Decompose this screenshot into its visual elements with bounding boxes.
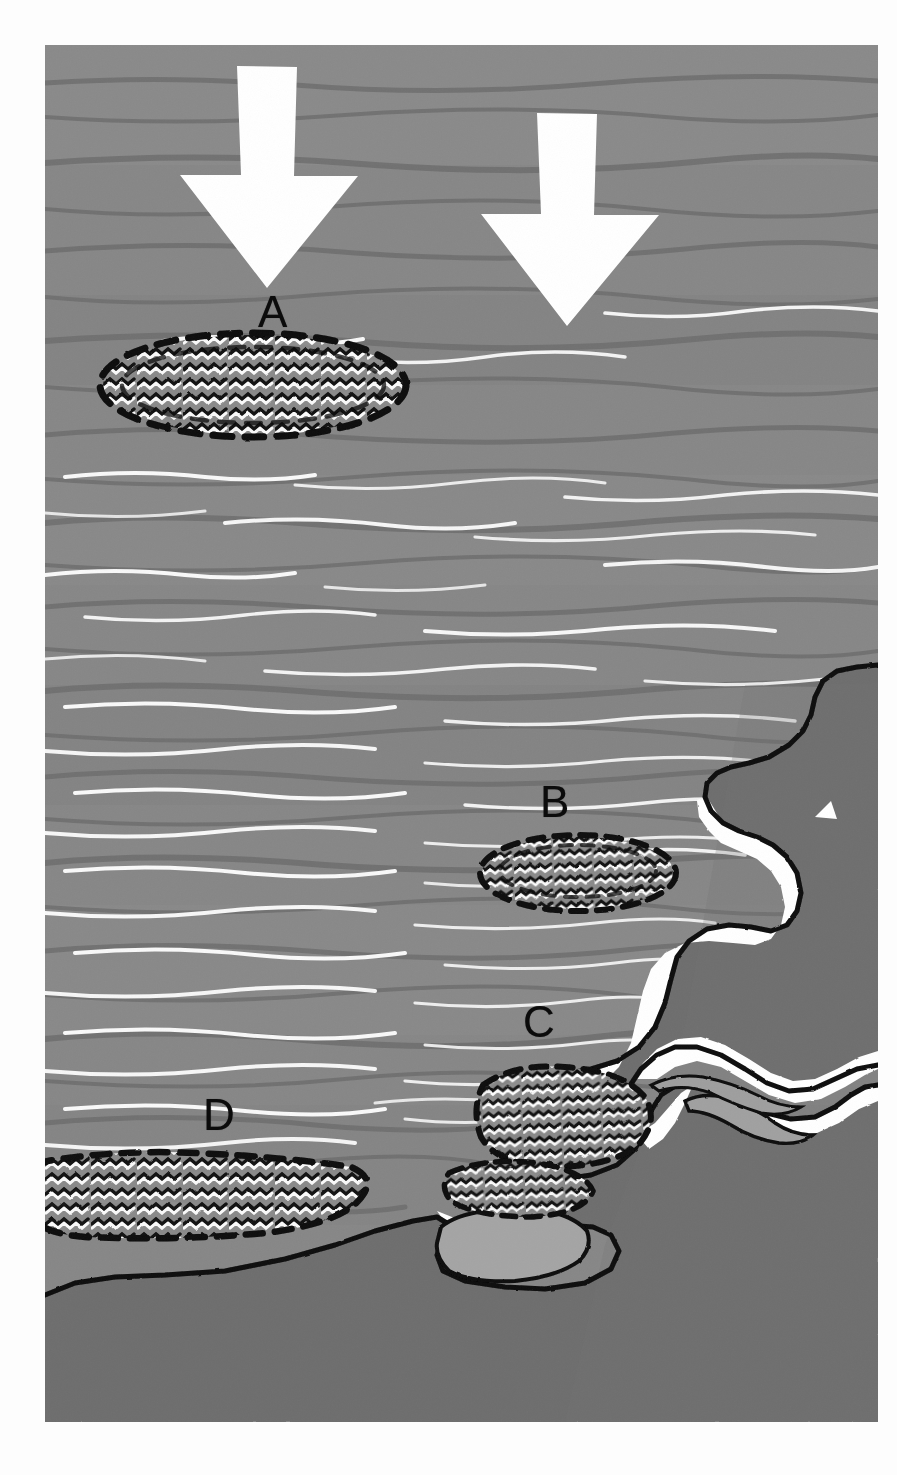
patch-label-d: D — [203, 1093, 235, 1137]
patch-label-c: C — [523, 1000, 555, 1044]
patch-label-b: B — [540, 780, 569, 824]
paper-grain-overlay — [45, 45, 878, 1422]
figure-root: A B C D — [0, 0, 897, 1475]
illustration-plate: A B C D — [45, 45, 878, 1422]
patch-label-a: A — [258, 290, 287, 334]
scene-svg — [45, 45, 878, 1422]
